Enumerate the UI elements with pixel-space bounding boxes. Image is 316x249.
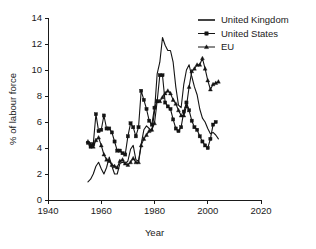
x-tick-label: 2000 [197, 205, 218, 216]
series-line [88, 75, 216, 154]
data-point-marker [169, 107, 172, 110]
y-tick-label: 4 [37, 142, 42, 153]
data-point-marker [172, 118, 175, 121]
legend-entry: United States [198, 28, 278, 39]
y-tick-label: 10 [31, 64, 42, 75]
y-tick-label: 14 [31, 12, 42, 23]
chart-legend: United KingdomUnited StatesEU [198, 14, 289, 52]
y-axis-tick-labels: 02468101214 [31, 12, 42, 205]
y-tick-label: 0 [37, 194, 42, 205]
y-tick-label: 8 [37, 90, 42, 101]
data-point-marker [102, 152, 106, 156]
data-point-marker [140, 89, 143, 92]
y-axis-title: % of labour force [7, 73, 18, 145]
data-point-marker [142, 98, 145, 101]
data-point-marker [216, 80, 220, 84]
y-tick-label: 2 [37, 168, 42, 179]
chart-canvas: 02468101214 19401960198020002020 % of la… [0, 0, 316, 249]
data-point-marker [188, 109, 191, 112]
data-point-marker [129, 122, 132, 125]
data-point-marker [148, 119, 151, 122]
legend-label: EU [221, 41, 234, 52]
data-point-marker [99, 143, 103, 147]
legend-square-marker-icon [205, 32, 208, 35]
data-point-marker [145, 107, 148, 110]
y-tick-label: 6 [37, 116, 42, 127]
data-point-marker [108, 127, 111, 130]
legend-label: United States [221, 28, 278, 39]
data-point-marker [198, 135, 201, 138]
x-tick-label: 1940 [37, 205, 58, 216]
data-point-marker [164, 101, 167, 104]
x-tick-label: 1980 [144, 205, 165, 216]
data-point-marker [200, 56, 204, 60]
data-point-marker [166, 89, 170, 93]
data-point-marker [124, 153, 127, 156]
x-axis-ticks [48, 200, 261, 204]
x-tick-label: 1960 [91, 205, 112, 216]
data-point-marker [196, 128, 199, 131]
data-point-marker [139, 143, 143, 147]
data-point-marker [187, 85, 191, 89]
data-point-marker [131, 156, 135, 160]
data-point-marker [214, 120, 217, 123]
legend-label: United Kingdom [221, 14, 289, 25]
data-point-marker [132, 126, 135, 129]
x-axis-title: Year [145, 227, 164, 238]
data-point-marker [201, 140, 204, 143]
legend-entry: United Kingdom [198, 14, 289, 25]
series-eu [86, 56, 220, 169]
data-point-marker [126, 135, 129, 138]
data-point-marker [137, 126, 140, 129]
y-axis-ticks [45, 18, 49, 200]
data-point-marker [206, 146, 209, 149]
data-point-marker [153, 106, 156, 109]
data-point-marker [171, 98, 175, 102]
data-point-marker [97, 136, 101, 140]
data-point-marker [180, 126, 183, 129]
data-point-marker [209, 137, 212, 140]
data-point-marker [177, 130, 180, 133]
axes-group: 02468101214 19401960198020002020 [31, 12, 271, 216]
data-point-marker [102, 114, 105, 117]
data-point-marker [190, 119, 193, 122]
data-point-marker [113, 140, 116, 143]
data-point-marker [100, 128, 103, 131]
data-point-marker [94, 113, 97, 116]
data-point-marker [161, 74, 164, 77]
data-point-marker [134, 135, 137, 138]
x-axis-tick-labels: 19401960198020002020 [37, 205, 271, 216]
x-tick-label: 2020 [250, 205, 271, 216]
chart-figure: 02468101214 19401960198020002020 % of la… [0, 0, 316, 249]
data-point-marker [110, 131, 113, 134]
data-series-group [86, 38, 220, 182]
data-point-marker [203, 67, 207, 71]
legend-entry: EU [198, 41, 234, 52]
series-united-states [86, 74, 217, 156]
data-point-marker [177, 108, 181, 112]
data-point-marker [206, 78, 210, 82]
data-point-marker [121, 158, 125, 162]
y-tick-label: 12 [31, 38, 42, 49]
